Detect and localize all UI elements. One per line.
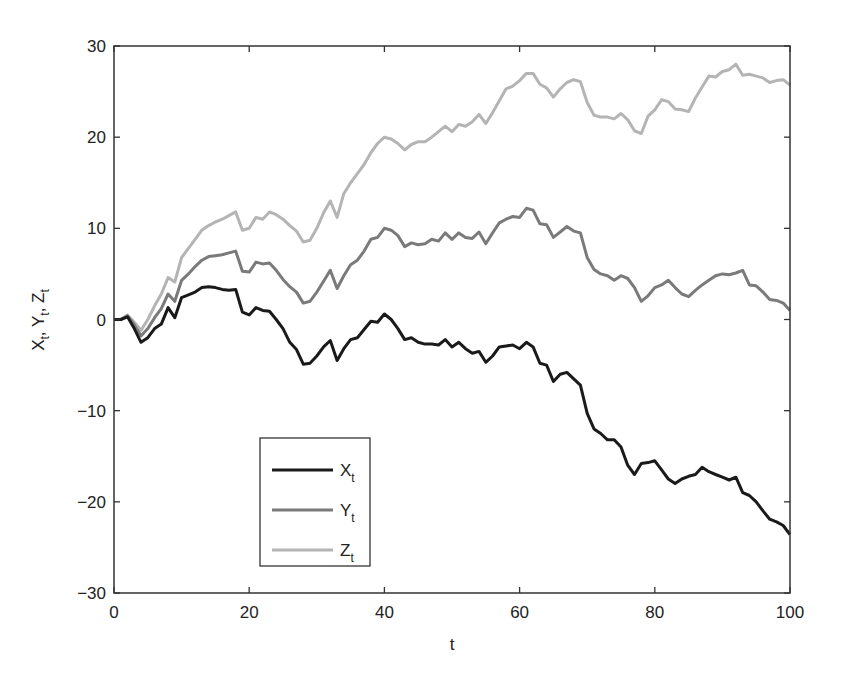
legend: XtYtZt bbox=[260, 438, 370, 566]
y-tick-label: 0 bbox=[97, 311, 106, 330]
x-axis-label: t bbox=[450, 635, 455, 654]
y-tick-label: −20 bbox=[77, 493, 106, 512]
y-tick-label: 10 bbox=[87, 219, 106, 238]
legend-box bbox=[260, 438, 370, 566]
y-tick-label: −10 bbox=[77, 402, 106, 421]
x-tick-label: 40 bbox=[375, 603, 394, 622]
line-chart: 020406080100−30−20−100102030 t Xt, Yt, Z… bbox=[0, 0, 851, 678]
x-tick-label: 60 bbox=[510, 603, 529, 622]
x-tick-label: 100 bbox=[776, 603, 804, 622]
x-tick-label: 20 bbox=[240, 603, 259, 622]
y-tick-label: 30 bbox=[87, 37, 106, 56]
x-tick-label: 0 bbox=[109, 603, 118, 622]
x-tick-label: 80 bbox=[645, 603, 664, 622]
chart-background bbox=[0, 0, 851, 678]
y-tick-label: −30 bbox=[77, 584, 106, 603]
y-tick-label: 20 bbox=[87, 128, 106, 147]
